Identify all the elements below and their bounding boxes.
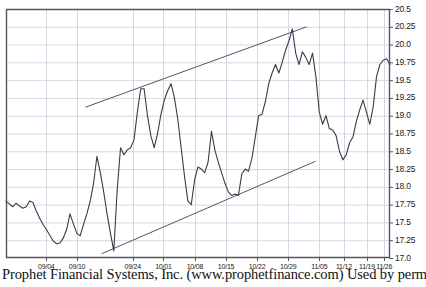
y-axis-tick-label: 17.75 (395, 200, 415, 209)
y-axis-tick-label: 20.5 (395, 5, 411, 14)
y-axis-tick-label: 18.75 (395, 129, 415, 138)
y-axis-tick-label: 17.5 (395, 218, 411, 227)
y-axis-tick-label: 19.25 (395, 93, 415, 102)
y-axis-tick-label: 17.25 (395, 236, 415, 245)
price-line (6, 29, 390, 251)
y-axis-tick-label: 19.0 (395, 111, 411, 120)
chart-canvas (0, 0, 426, 265)
attribution-caption: Prophet Financial Systems, Inc. (www.pro… (2, 266, 426, 283)
y-axis-tick-label: 20.25 (395, 22, 415, 31)
gridlines (6, 9, 390, 258)
y-axis-tick-label: 19.75 (395, 58, 415, 67)
chart-screenshot: 17.017.2517.517.7518.018.2518.518.7519.0… (0, 0, 426, 287)
trendlines (85, 27, 315, 254)
y-axis-tick-label: 20.0 (395, 40, 411, 49)
plot-frame (6, 9, 390, 258)
y-axis-tick-label: 18.0 (395, 182, 411, 191)
y-axis-tick-label: 18.5 (395, 147, 411, 156)
y-axis-tick-label: 19.5 (395, 76, 411, 85)
y-axis-tick-label: 18.25 (395, 165, 415, 174)
stock-price-chart: 17.017.2517.517.7518.018.2518.518.7519.0… (0, 0, 426, 265)
y-axis-tick-label: 17.0 (395, 254, 411, 263)
